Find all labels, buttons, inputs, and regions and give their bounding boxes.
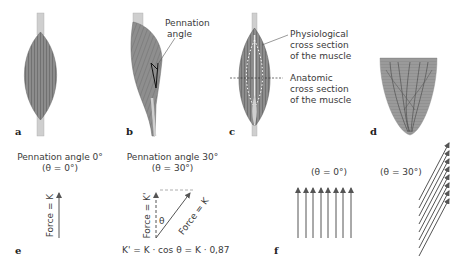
force-formula: K' = K · cos θ = K · 0,87 [122,245,229,256]
muscle-c-illustration [230,13,288,136]
pennation-30-title: Pennation angle 30° (θ = 30°) [115,152,230,174]
pennate-force-arrows-30deg [419,143,449,256]
panel-letter-c: c [229,126,235,137]
panel-letter-f: f [274,245,278,256]
physiological-cross-section-label: Physiological cross section of the muscl… [290,29,351,62]
panel-letter-b: b [126,126,133,137]
pennation-0-title: Pennation angle 0° (θ = 0°) [5,152,115,174]
panel-letter-e: e [15,245,21,256]
muscle-a-illustration [24,13,56,136]
muscle-d-illustration [380,58,437,135]
pennation-angle-label: Pennation angle [165,18,210,40]
parallel-force-arrows-0deg [298,188,351,238]
force-k-label: Force = K [45,186,56,246]
anatomic-cross-section-label: Anatomic cross section of the muscle [290,73,351,106]
theta-30-label: (θ = 30°) [380,167,422,178]
panel-letter-a: a [15,126,21,137]
theta-0-label: (θ = 0°) [311,167,347,178]
force-k-prime-label: Force = K' [142,186,153,246]
theta-symbol: θ [159,216,165,227]
panel-letter-d: d [370,126,377,137]
